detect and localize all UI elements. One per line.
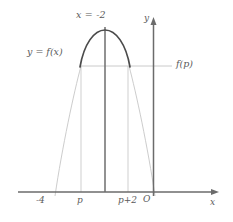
axis-of-symmetry-label: x = -2 bbox=[76, 10, 106, 20]
x-tick-label-p: p bbox=[77, 196, 83, 205]
fp-value-label: f(p) bbox=[176, 59, 193, 69]
y-axis-arrowhead bbox=[151, 17, 157, 25]
y-axis-label: y bbox=[144, 14, 149, 23]
parabola-thin-left-branch bbox=[55, 66, 81, 196]
x-tick-label-p-plus-2: p+2 bbox=[118, 196, 137, 205]
origin-label: O bbox=[143, 195, 150, 204]
x-axis-arrowhead bbox=[211, 189, 219, 195]
x-tick-label-neg4: -4 bbox=[36, 196, 45, 205]
curve-label: y = f(x) bbox=[27, 47, 63, 57]
x-axis-label: x bbox=[210, 198, 215, 207]
parabola-thin-right-branch bbox=[129, 66, 155, 196]
function-graph-figure bbox=[0, 0, 233, 222]
